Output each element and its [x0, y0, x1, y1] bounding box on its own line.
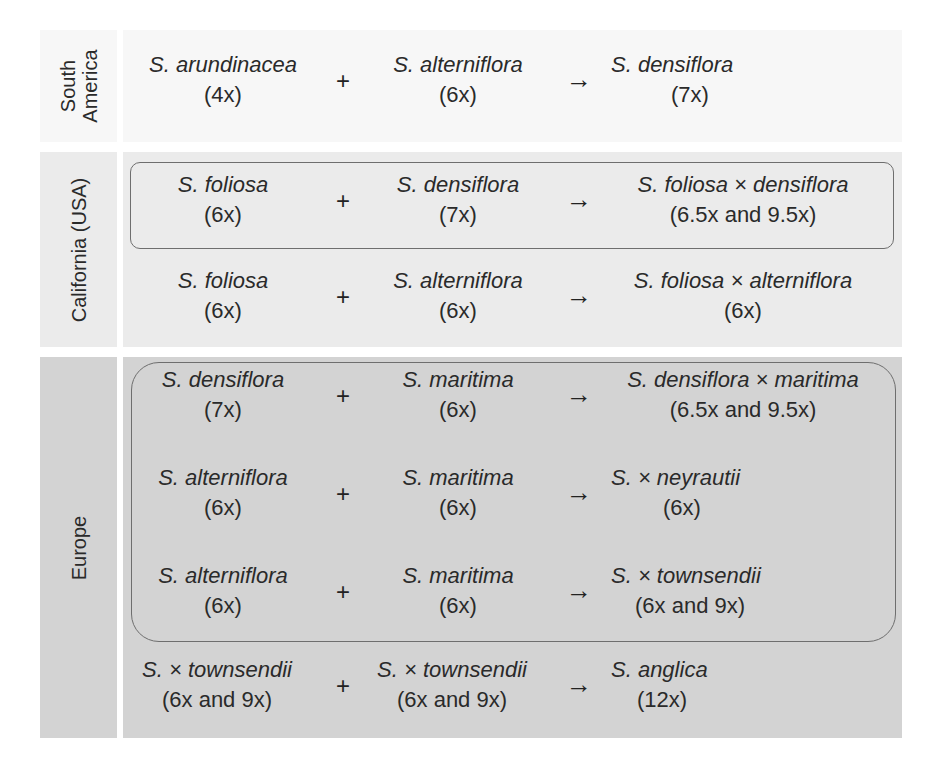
arrow-right-icon: →	[559, 64, 599, 94]
ploidy-level: (4x)	[123, 80, 323, 110]
species-name: S. densiflora	[611, 50, 911, 80]
cross-row: S. alterniflora (6x) + S. maritima (6x) …	[123, 463, 902, 543]
species-name: S. arundinacea	[123, 50, 323, 80]
region-label-europe: Europe	[68, 515, 90, 580]
arrow-right-icon: →	[559, 575, 599, 605]
parent-1: S. × townsendii (6x and 9x)	[117, 655, 317, 715]
ploidy-level: (7x)	[123, 395, 323, 425]
species-name: S. foliosa	[123, 170, 323, 200]
species-name: S. alterniflora	[359, 266, 557, 296]
ploidy-level: (6x)	[359, 591, 557, 621]
species-name: S. foliosa	[123, 266, 323, 296]
plus-icon: +	[327, 186, 359, 216]
plus-icon: +	[327, 479, 359, 509]
hybrid-product: S. foliosa × densiflora (6.5x and 9.5x)	[593, 170, 893, 230]
region-label-line-1: South	[57, 60, 79, 112]
parent-2: S. densiflora (7x)	[359, 170, 557, 230]
parent-2: S. × townsendii (6x and 9x)	[353, 655, 551, 715]
ploidy-level: (6x)	[359, 80, 557, 110]
species-name: S. anglica	[611, 655, 911, 685]
cross-row: S. foliosa (6x) + S. densiflora (7x) → S…	[123, 170, 902, 250]
parent-2: S. alterniflora (6x)	[359, 50, 557, 110]
region-label-cell: Europe	[40, 357, 117, 738]
region-label-south-america: South America	[57, 49, 101, 122]
parent-2: S. maritima (6x)	[359, 463, 557, 523]
hybrid-product: S. densiflora (7x)	[611, 50, 911, 110]
parent-2: S. maritima (6x)	[359, 365, 557, 425]
plus-icon: +	[327, 282, 359, 312]
ploidy-level: (6x)	[593, 296, 893, 326]
cross-row: S. foliosa (6x) + S. alterniflora (6x) →…	[123, 266, 902, 346]
parent-1: S. alterniflora (6x)	[123, 561, 323, 621]
species-name: S. densiflora	[359, 170, 557, 200]
ploidy-level: (6x)	[123, 493, 323, 523]
hybrid-product: S. × neyrautii (6x)	[611, 463, 911, 523]
ploidy-level: (6x)	[611, 493, 911, 523]
parent-1: S. arundinacea (4x)	[123, 50, 323, 110]
species-name: S. maritima	[359, 463, 557, 493]
hybrid-product: S. anglica (12x)	[611, 655, 911, 715]
species-name: S. alterniflora	[123, 561, 323, 591]
species-name: S. × townsendii	[117, 655, 317, 685]
ploidy-level: (6x)	[123, 591, 323, 621]
species-name: S. × townsendii	[353, 655, 551, 685]
region-panel-europe: S. densiflora (7x) + S. maritima (6x) → …	[123, 357, 902, 738]
ploidy-level: (6x and 9x)	[353, 685, 551, 715]
ploidy-level: (6x)	[123, 296, 323, 326]
ploidy-level: (6.5x and 9.5x)	[593, 200, 893, 230]
ploidy-level: (6.5x and 9.5x)	[593, 395, 893, 425]
hybrid-product: S. foliosa × alterniflora (6x)	[593, 266, 893, 326]
ploidy-level: (6x)	[359, 296, 557, 326]
parent-2: S. alterniflora (6x)	[359, 266, 557, 326]
ploidy-level: (6x)	[123, 200, 323, 230]
parent-2: S. maritima (6x)	[359, 561, 557, 621]
species-name: S. maritima	[359, 561, 557, 591]
plus-icon: +	[327, 381, 359, 411]
ploidy-level: (6x and 9x)	[117, 685, 317, 715]
ploidy-level: (6x)	[359, 493, 557, 523]
ploidy-level: (6x)	[359, 395, 557, 425]
species-name: S. foliosa × densiflora	[593, 170, 893, 200]
species-name: S. × townsendii	[611, 561, 911, 591]
arrow-right-icon: →	[559, 477, 599, 507]
parent-1: S. alterniflora (6x)	[123, 463, 323, 523]
hybrid-product: S. densiflora × maritima (6.5x and 9.5x)	[593, 365, 893, 425]
cross-row: S. × townsendii (6x and 9x) + S. × towns…	[123, 655, 902, 735]
region-label-cell: California (USA)	[40, 152, 117, 347]
species-name: S. × neyrautii	[611, 463, 911, 493]
region-label-line-2: America	[79, 49, 101, 122]
species-name: S. alterniflora	[359, 50, 557, 80]
species-name: S. densiflora	[123, 365, 323, 395]
species-name: S. alterniflora	[123, 463, 323, 493]
species-name: S. densiflora × maritima	[593, 365, 893, 395]
ploidy-level: (12x)	[611, 685, 911, 715]
ploidy-level: (6x and 9x)	[611, 591, 911, 621]
region-panel-south-america: S. arundinacea (4x) + S. alterniflora (6…	[123, 30, 902, 142]
plus-icon: +	[327, 577, 359, 607]
region-label-california: California (USA)	[68, 177, 90, 321]
cross-row: S. alterniflora (6x) + S. maritima (6x) …	[123, 561, 902, 641]
parent-1: S. densiflora (7x)	[123, 365, 323, 425]
cross-row: S. arundinacea (4x) + S. alterniflora (6…	[123, 50, 902, 130]
plus-icon: +	[327, 66, 359, 96]
species-name: S. foliosa × alterniflora	[593, 266, 893, 296]
parent-1: S. foliosa (6x)	[123, 170, 323, 230]
region-panel-california: S. foliosa (6x) + S. densiflora (7x) → S…	[123, 152, 902, 347]
parent-1: S. foliosa (6x)	[123, 266, 323, 326]
region-label-cell: South America	[40, 30, 117, 142]
species-name: S. maritima	[359, 365, 557, 395]
arrow-right-icon: →	[559, 669, 599, 699]
ploidy-level: (7x)	[359, 200, 557, 230]
cross-row: S. densiflora (7x) + S. maritima (6x) → …	[123, 365, 902, 445]
hybrid-product: S. × townsendii (6x and 9x)	[611, 561, 911, 621]
ploidy-level: (7x)	[611, 80, 911, 110]
